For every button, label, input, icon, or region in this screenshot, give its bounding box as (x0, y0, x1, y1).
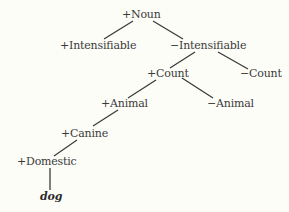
edge-plus-count-minus-animal (182, 78, 213, 98)
edge-plus-animal-plus-canine (93, 110, 118, 126)
node-plus-canine: +Canine (61, 128, 108, 140)
node-minus-count: −Count (240, 68, 282, 80)
edge-noun-plus-intensifiable (104, 21, 133, 39)
node-minus-intensifiable: −Intensifiable (170, 40, 246, 52)
node-dog: dog (40, 191, 62, 203)
node-plus-count: +Count (147, 68, 189, 80)
edge-plus-count-plus-animal (128, 80, 156, 98)
node-minus-animal: −Animal (207, 98, 254, 110)
edge-plus-canine-plus-domestic (54, 140, 77, 156)
node-plus-intensifiable: +Intensifiable (60, 40, 136, 52)
node-plus-domestic: +Domestic (17, 156, 77, 168)
node-noun: +Noun (122, 9, 161, 21)
edge-minus-intensifiable-plus-count (170, 52, 195, 68)
node-plus-animal: +Animal (101, 98, 148, 110)
edge-noun-minus-intensifiable (153, 21, 183, 39)
